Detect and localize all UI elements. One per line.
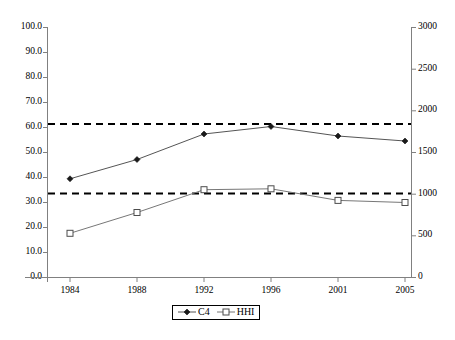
legend-entry-hhi: HHI	[217, 307, 255, 317]
data-point-hhi-1984	[67, 230, 73, 236]
data-point-c4-1988	[134, 157, 140, 163]
data-point-c4-1992	[201, 131, 207, 137]
legend-label-c4: C4	[198, 307, 210, 317]
left-axis-ticks	[43, 28, 48, 278]
legend-entry-c4: C4	[178, 307, 210, 317]
data-point-hhi-1996	[268, 186, 274, 192]
data-point-hhi-1988	[134, 210, 140, 216]
chart-container: 100.0 90.0 80.0 70.0 60.0 50.0 40.0 30.0…	[0, 0, 455, 340]
plot-area	[0, 0, 455, 340]
series-line-c4	[70, 127, 405, 179]
data-point-c4-1984	[67, 176, 73, 182]
x-axis-ticks	[48, 278, 406, 283]
data-point-c4-2001	[335, 133, 341, 139]
series-markers-hhi	[67, 186, 408, 237]
data-point-hhi-1992	[201, 187, 207, 193]
series-markers-c4	[67, 124, 408, 182]
data-point-hhi-2005	[402, 200, 408, 206]
legend-label-hhi: HHI	[237, 307, 255, 317]
chart-legend: C4 HHI	[172, 305, 260, 320]
data-point-c4-2005	[402, 138, 408, 144]
data-point-hhi-2001	[335, 197, 341, 203]
legend-marker-c4-icon	[178, 308, 196, 316]
legend-marker-hhi-icon	[217, 308, 235, 316]
series-line-hhi-path	[70, 189, 405, 234]
caption-fragment	[6, 328, 306, 338]
right-axis-ticks	[412, 28, 417, 278]
